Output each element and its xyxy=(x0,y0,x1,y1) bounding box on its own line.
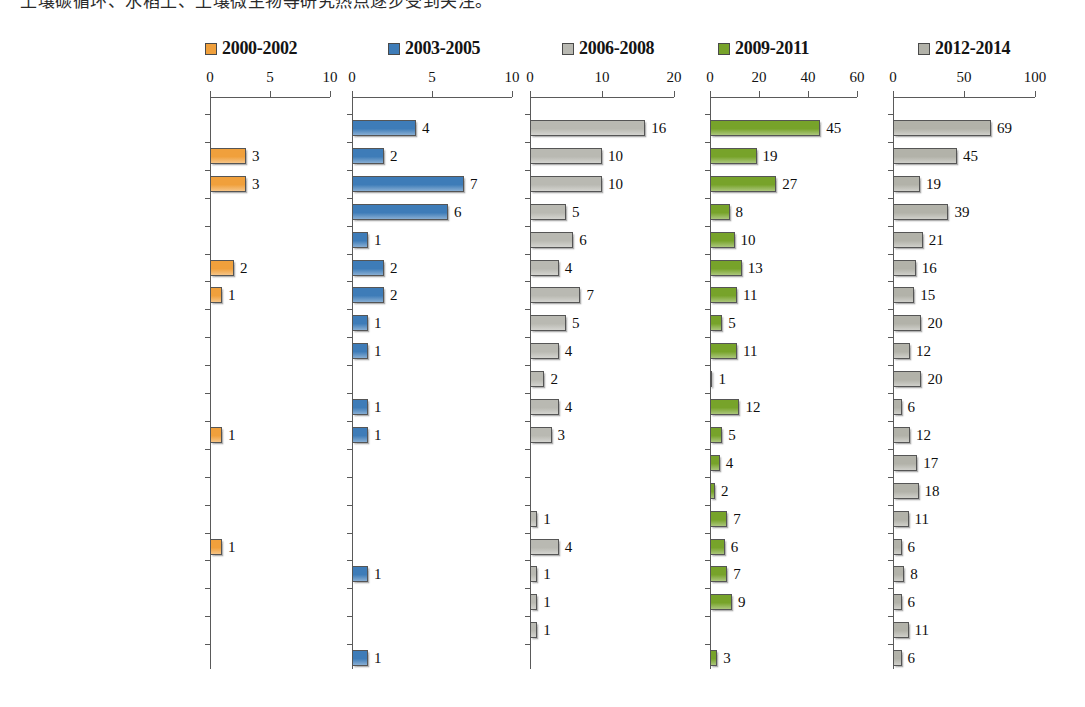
bar-value-label: 3 xyxy=(252,175,260,192)
bar[interactable] xyxy=(710,260,742,276)
x-axis-tick xyxy=(1035,91,1036,97)
legend-swatch-icon xyxy=(562,43,574,55)
bar[interactable] xyxy=(710,371,712,387)
legend-item-2000-2002[interactable]: 2000-2002 xyxy=(205,38,297,59)
bar[interactable] xyxy=(893,176,920,192)
bar[interactable] xyxy=(530,427,552,443)
bar[interactable] xyxy=(352,287,384,303)
bar[interactable] xyxy=(893,650,902,666)
bar[interactable] xyxy=(352,176,464,192)
bar[interactable] xyxy=(710,315,722,331)
bar[interactable] xyxy=(210,260,234,276)
y-axis-tick xyxy=(347,114,352,115)
bar[interactable] xyxy=(710,455,720,471)
bar[interactable] xyxy=(352,232,368,248)
bar-value-label: 20 xyxy=(927,315,942,332)
bar[interactable] xyxy=(893,483,919,499)
y-axis-tick xyxy=(347,170,352,171)
bar[interactable] xyxy=(530,511,537,527)
bar[interactable] xyxy=(352,427,368,443)
bar[interactable] xyxy=(893,260,916,276)
bar[interactable] xyxy=(710,204,730,220)
bar[interactable] xyxy=(530,371,544,387)
bar[interactable] xyxy=(530,148,602,164)
bar[interactable] xyxy=(893,120,991,136)
bar[interactable] xyxy=(710,594,732,610)
bar[interactable] xyxy=(352,399,368,415)
bar[interactable] xyxy=(893,204,948,220)
legend-item-label: 2012-2014 xyxy=(935,38,1010,59)
bar[interactable] xyxy=(352,566,368,582)
bar[interactable] xyxy=(352,343,368,359)
bar[interactable] xyxy=(710,650,717,666)
bar[interactable] xyxy=(530,594,537,610)
bar[interactable] xyxy=(710,120,820,136)
bar[interactable] xyxy=(893,148,957,164)
bar[interactable] xyxy=(530,232,573,248)
y-axis-tick xyxy=(347,505,352,506)
bar[interactable] xyxy=(893,427,910,443)
bar[interactable] xyxy=(352,260,384,276)
bar[interactable] xyxy=(710,343,737,359)
bar[interactable] xyxy=(893,566,904,582)
bar[interactable] xyxy=(530,120,645,136)
bar[interactable] xyxy=(210,427,222,443)
bar[interactable] xyxy=(530,315,566,331)
bar[interactable] xyxy=(710,287,737,303)
bar[interactable] xyxy=(893,371,921,387)
legend-item-2003-2005[interactable]: 2003-2005 xyxy=(388,38,480,59)
bar[interactable] xyxy=(710,566,727,582)
bar[interactable] xyxy=(352,315,368,331)
bar[interactable] xyxy=(530,176,602,192)
legend-swatch-icon xyxy=(388,43,400,55)
bar[interactable] xyxy=(893,287,914,303)
bar[interactable] xyxy=(530,287,580,303)
bar[interactable] xyxy=(530,539,559,555)
bar[interactable] xyxy=(530,622,537,638)
legend-item-2009-2011[interactable]: 2009-2011 xyxy=(718,38,809,59)
legend-item-2006-2008[interactable]: 2006-2008 xyxy=(562,38,654,59)
bar[interactable] xyxy=(530,399,559,415)
bar[interactable] xyxy=(893,455,917,471)
bar[interactable] xyxy=(710,232,735,248)
y-axis-tick xyxy=(705,449,710,450)
bar[interactable] xyxy=(210,148,246,164)
bar[interactable] xyxy=(530,204,566,220)
bar[interactable] xyxy=(893,622,909,638)
bar[interactable] xyxy=(530,343,559,359)
bar[interactable] xyxy=(352,204,448,220)
y-axis-tick xyxy=(525,337,530,338)
x-axis-tick-label: 20 xyxy=(752,69,767,86)
bar[interactable] xyxy=(710,539,725,555)
bar[interactable] xyxy=(893,511,909,527)
bar[interactable] xyxy=(710,148,757,164)
bar[interactable] xyxy=(210,539,222,555)
legend-item-2012-2014[interactable]: 2012-2014 xyxy=(918,38,1010,59)
y-axis-tick xyxy=(525,393,530,394)
bar[interactable] xyxy=(710,511,727,527)
bar[interactable] xyxy=(893,539,902,555)
bar[interactable] xyxy=(893,343,910,359)
y-axis-tick xyxy=(205,226,210,227)
bar[interactable] xyxy=(530,260,559,276)
y-axis-tick xyxy=(205,198,210,199)
bar[interactable] xyxy=(710,399,739,415)
y-axis-tick xyxy=(525,644,530,645)
bar[interactable] xyxy=(893,399,902,415)
bar-value-label: 1 xyxy=(228,426,236,443)
bar[interactable] xyxy=(352,148,384,164)
bar[interactable] xyxy=(893,232,923,248)
bar[interactable] xyxy=(210,287,222,303)
bar-value-label: 1 xyxy=(374,566,382,583)
bar[interactable] xyxy=(352,120,416,136)
bar-value-label: 18 xyxy=(925,482,940,499)
bar[interactable] xyxy=(710,427,722,443)
bar[interactable] xyxy=(710,483,715,499)
bar[interactable] xyxy=(530,566,537,582)
bar[interactable] xyxy=(893,594,902,610)
bar[interactable] xyxy=(210,176,246,192)
bar[interactable] xyxy=(352,650,368,666)
bar[interactable] xyxy=(893,315,921,331)
y-axis-tick xyxy=(205,533,210,534)
bar[interactable] xyxy=(710,176,776,192)
